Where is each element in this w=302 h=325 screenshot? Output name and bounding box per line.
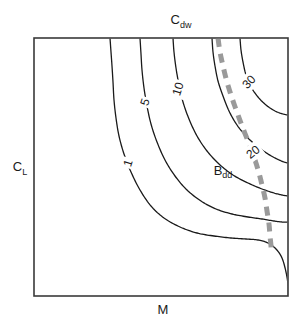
region-label-bdd: Bdd [214, 164, 233, 181]
bottom-axis-label: M [158, 303, 169, 316]
contour-plot-figure: Cdw CL M 1 5 10 20 30 Bdd [0, 0, 302, 325]
region-label-bdd-base: B [214, 163, 223, 178]
top-axis-label: Cdw [171, 13, 192, 30]
top-axis-label-base: C [171, 12, 180, 27]
left-axis-label-subscript: L [22, 167, 27, 177]
contour-plot-canvas [0, 0, 302, 325]
top-axis-label-subscript: dw [180, 20, 192, 30]
left-axis-label: CL [13, 160, 27, 177]
region-label-bdd-subscript: dd [222, 170, 232, 180]
left-axis-label-base: C [13, 159, 22, 174]
